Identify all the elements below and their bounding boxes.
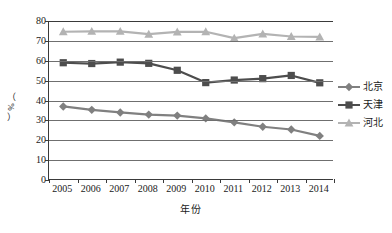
legend-marker-天津	[338, 99, 360, 111]
x-tick-label-2006: 2006	[81, 183, 101, 195]
gridline-30	[49, 120, 333, 121]
legend-label-北京: 北京	[363, 81, 383, 93]
legend: 北京天津河北	[338, 78, 392, 132]
data-point-天津-2009	[174, 67, 181, 74]
legend-item-河北[interactable]: 河北	[338, 114, 392, 132]
legend-label-天津: 天津	[363, 99, 383, 111]
x-tick-label-2009: 2009	[166, 183, 186, 195]
gridline-60	[49, 61, 333, 62]
data-point-天津-2007	[117, 59, 124, 66]
gridline-50	[49, 81, 333, 82]
gridline-10	[49, 160, 333, 161]
series-天津	[60, 59, 324, 87]
legend-label-河北: 河北	[363, 117, 383, 129]
y-tick-mark-70	[45, 41, 49, 42]
data-point-北京-2005	[59, 102, 67, 110]
x-tick-label-2014: 2014	[309, 183, 329, 195]
legend-item-北京[interactable]: 北京	[338, 78, 392, 96]
data-point-天津-2013	[288, 72, 295, 79]
y-tick-mark-40	[45, 101, 49, 102]
data-point-北京-2014	[316, 132, 324, 140]
x-tick-label-2008: 2008	[138, 183, 158, 195]
x-axis-title: 年份	[48, 201, 333, 216]
plot-area	[48, 21, 333, 180]
y-tick-mark-30	[45, 120, 49, 121]
line-chart: （ % ） 80706050403020100 2005200620072008…	[0, 0, 392, 233]
x-axis-tick-labels: 2005200620072008200920102011201220132014	[0, 183, 392, 199]
x-tick-label-2005: 2005	[52, 183, 72, 195]
y-axis-title-percent: %	[6, 100, 16, 114]
x-tick-label-2012: 2012	[252, 183, 272, 195]
legend-marker-glyph-河北	[345, 119, 354, 127]
gridline-20	[49, 140, 333, 141]
data-point-北京-2007	[116, 108, 124, 116]
x-tick-label-2011: 2011	[223, 183, 243, 195]
y-tick-mark-10	[45, 160, 49, 161]
y-axis-title: （ % ）	[4, 92, 18, 122]
series-河北	[59, 27, 324, 42]
legend-marker-北京	[338, 81, 360, 93]
y-tick-mark-60	[45, 61, 49, 62]
gridline-70	[49, 41, 333, 42]
x-tick-label-2010: 2010	[195, 183, 215, 195]
legend-marker-glyph-天津	[345, 101, 352, 108]
series-line-河北	[63, 31, 320, 38]
legend-swatch-天津	[338, 99, 360, 111]
data-point-北京-2009	[173, 111, 181, 119]
gridline-80	[49, 21, 333, 22]
x-tick-label-2007: 2007	[109, 183, 129, 195]
y-tick-mark-80	[45, 21, 49, 22]
legend-marker-glyph-北京	[345, 83, 353, 91]
legend-item-天津[interactable]: 天津	[338, 96, 392, 114]
data-point-北京-2006	[88, 106, 96, 114]
y-tick-mark-20	[45, 140, 49, 141]
data-point-北京-2012	[259, 123, 267, 131]
legend-swatch-河北	[338, 117, 360, 129]
y-tick-mark-50	[45, 81, 49, 82]
data-point-北京-2008	[145, 110, 153, 118]
data-point-北京-2013	[287, 125, 295, 133]
legend-swatch-北京	[338, 81, 360, 93]
legend-marker-河北	[338, 117, 360, 129]
gridline-40	[49, 101, 333, 102]
x-tick-label-2013: 2013	[280, 183, 300, 195]
